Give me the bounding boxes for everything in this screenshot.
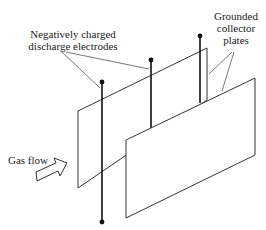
electrodes-label-line-1: Negatively charged — [18, 28, 128, 40]
gas-flow-label: Gas flow — [8, 154, 48, 166]
plates-label-line-1: Grounded — [208, 10, 264, 22]
leader-line-plate-front — [222, 52, 234, 91]
electrode-left-top-dot — [100, 80, 105, 85]
electrodes-label: Negatively charged discharge electrodes — [18, 28, 128, 52]
electrode-left-bottom-dot — [100, 220, 105, 225]
plates-label: Grounded collector plates — [208, 10, 264, 46]
electrode-middle-top-dot — [149, 58, 154, 63]
plates-label-line-3: plates — [208, 34, 264, 46]
electrode-right-top-dot — [198, 34, 203, 39]
plates-label-line-2: collector — [208, 22, 264, 34]
electrodes-label-line-2: discharge electrodes — [18, 40, 128, 52]
leader-line-electrode-middle — [66, 52, 149, 69]
